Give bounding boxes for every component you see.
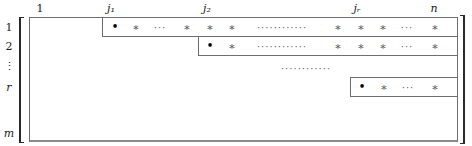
star-entry: ∗: [206, 22, 213, 33]
column-label-jr: jᵣ: [353, 3, 360, 14]
row-2-entries: • ∗ ············ ∗ ∗ ∗ ··· ∗: [0, 36, 472, 56]
row-r-entries: • ∗ ··· ∗: [0, 77, 472, 97]
star-entry: ∗: [228, 41, 235, 52]
ellipsis: ···: [402, 82, 415, 93]
star-entry: ∗: [380, 82, 387, 93]
star-entry: ∗: [183, 22, 190, 33]
ellipsis: ···: [154, 22, 167, 33]
ellipsis: ············: [257, 22, 307, 33]
ellipsis: ···: [401, 22, 414, 33]
star-entry: ∗: [379, 41, 386, 52]
pivot-entry: •: [206, 41, 213, 52]
middle-row-ellipsis: ············: [281, 63, 331, 74]
row-label-vdots: ⋮: [4, 61, 15, 72]
star-entry: ∗: [357, 41, 364, 52]
star-entry: ∗: [334, 22, 341, 33]
column-label-j2: j₂: [203, 3, 211, 14]
column-label-j1: j₁: [107, 3, 115, 14]
pivot-entry: •: [111, 22, 118, 33]
star-entry: ∗: [228, 22, 235, 33]
row-label-m: m: [4, 128, 14, 139]
row-1-entries: • ∗ ··· ∗ ∗ ∗ ············ ∗ ∗ ∗ ··· ∗: [0, 17, 472, 37]
star-entry: ∗: [379, 22, 386, 33]
column-label-1: 1: [37, 3, 44, 14]
star-entry: ∗: [334, 41, 341, 52]
star-entry: ∗: [132, 22, 139, 33]
ellipsis: ···: [401, 41, 414, 52]
star-entry: ∗: [431, 82, 438, 93]
column-label-n: n: [430, 3, 437, 14]
star-entry: ∗: [357, 22, 364, 33]
star-entry: ∗: [431, 41, 438, 52]
pivot-entry: •: [358, 82, 365, 93]
ellipsis: ············: [257, 41, 307, 52]
star-entry: ∗: [431, 22, 438, 33]
